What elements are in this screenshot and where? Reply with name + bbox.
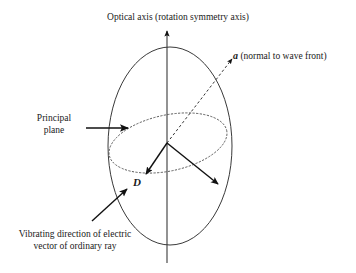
vibrating-direction-label-line1: Vibrating direction of electric	[10, 228, 140, 240]
vibrating-direction-label: Vibrating direction of electric vector o…	[10, 228, 140, 252]
wave-normal-a-line	[167, 59, 232, 143]
principal-plane-label: Principal plane	[24, 113, 84, 136]
ordinary-ray-vector-line	[167, 143, 218, 184]
optical-axis-label: Optical axis (rotation symmetry axis)	[0, 12, 356, 24]
principal-plane-label-line1: Principal	[24, 113, 84, 125]
vibrating-direction-pointer	[92, 189, 127, 221]
wave-normal-label: a (normal to wave front)	[233, 50, 327, 63]
principal-plane-label-line2: plane	[24, 125, 84, 137]
vibrating-direction-label-line2: vector of ordinary ray	[10, 240, 140, 252]
d-vector-label: D	[133, 177, 141, 189]
figure-canvas: Optical axis (rotation symmetry axis) a …	[0, 0, 356, 273]
d-vector-line	[146, 143, 167, 174]
wave-normal-description: (normal to wave front)	[238, 51, 327, 61]
